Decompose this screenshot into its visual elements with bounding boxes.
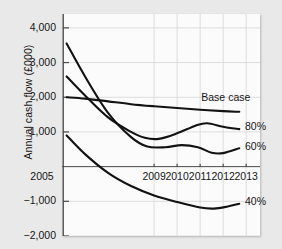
series-label-80-: 80% <box>245 120 266 132</box>
y-tick-label: 4,000 <box>8 21 56 33</box>
y-tick-label: 2,000 <box>8 90 56 102</box>
plot-svg <box>62 14 260 236</box>
x-tick-label: 2010 <box>165 170 188 182</box>
x-tick-label: 2011 <box>189 170 212 182</box>
x-tick-label: 2012 <box>211 170 234 182</box>
x-tick-label: 2005 <box>30 170 53 182</box>
plot-area <box>62 14 260 236</box>
series-label-40-: 40% <box>245 195 266 207</box>
x-tick-label: 2013 <box>234 170 257 182</box>
series-label-base-case: Base case <box>201 91 250 103</box>
x-tick-label: 2009 <box>142 170 165 182</box>
y-tick-label: 3,000 <box>8 56 56 68</box>
series-label-60-: 60% <box>245 140 266 152</box>
y-tick-label: −2,000 <box>8 229 56 241</box>
chart-container: Annual cash flow (£000) 4,0003,0002,0001… <box>0 0 282 249</box>
y-tick-label: 1,000 <box>8 125 56 137</box>
y-tick-label: −1,000 <box>8 194 56 206</box>
series-line-80- <box>67 76 240 139</box>
